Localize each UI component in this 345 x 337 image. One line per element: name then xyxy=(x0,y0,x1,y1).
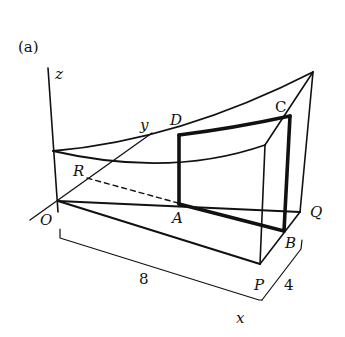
y-axis-label: y xyxy=(139,116,149,134)
dimension-4-label: 4 xyxy=(284,276,294,294)
point-label-C: C xyxy=(275,98,286,116)
point-label-R: R xyxy=(72,162,84,180)
z-axis xyxy=(48,68,58,212)
point-label-A: A xyxy=(170,209,183,227)
z-axis-label: z xyxy=(54,65,63,83)
dimension-8-bracket xyxy=(60,229,262,300)
base-edge-OP xyxy=(58,201,260,264)
dimension-8-label: 8 xyxy=(139,270,149,288)
point-label-Q: Q xyxy=(310,203,322,221)
vertical-edge-P xyxy=(260,145,265,264)
point-label-P: P xyxy=(253,276,265,294)
panel-label: (a) xyxy=(18,38,39,56)
vertical-edge-Q xyxy=(300,72,313,212)
geometry-diagram: (a) z y x D C R O A Q B P 8 4 xyxy=(0,0,345,337)
dashed-RA xyxy=(87,178,178,203)
point-label-B: B xyxy=(284,234,296,252)
edge-CB xyxy=(284,116,290,231)
x-axis-label: x xyxy=(236,309,245,327)
curve-top-back xyxy=(53,72,313,151)
point-label-D: D xyxy=(169,111,182,129)
point-label-O: O xyxy=(40,211,52,229)
